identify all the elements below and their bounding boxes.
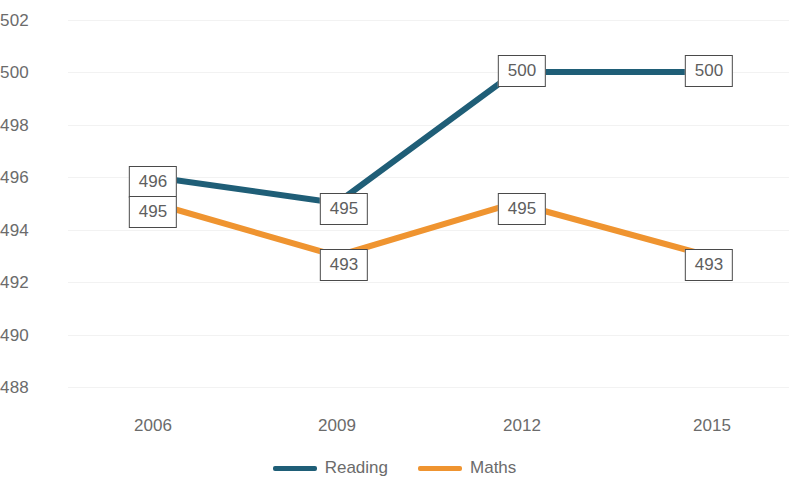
gridline-488	[68, 387, 789, 388]
data-label-reading-2012: 500	[498, 55, 546, 87]
legend-swatch-reading-icon	[273, 466, 317, 471]
data-label-maths-2015: 493	[685, 249, 733, 281]
y-axis-tick-492: 492	[0, 273, 58, 293]
line-chart: 502 500 498 496 494 492 490 488 496 495 …	[0, 0, 789, 484]
y-axis-tick-488: 488	[0, 378, 58, 398]
legend-label-maths: Maths	[470, 458, 516, 478]
legend-swatch-maths-icon	[418, 466, 462, 471]
y-axis-tick-502: 502	[0, 11, 58, 31]
y-axis-tick-490: 490	[0, 326, 58, 346]
gridline-498	[68, 125, 789, 126]
x-axis-tick-2009: 2009	[318, 416, 356, 436]
y-axis-tick-494: 494	[0, 221, 58, 241]
data-label-reading-2006: 496	[129, 166, 177, 198]
gridline-492	[68, 282, 789, 283]
chart-legend: Reading Maths	[0, 458, 789, 478]
y-axis-tick-500: 500	[0, 63, 58, 83]
data-label-reading-2015: 500	[685, 55, 733, 87]
x-axis-tick-2012: 2012	[503, 416, 541, 436]
gridline-502	[68, 20, 789, 21]
data-label-maths-2006: 495	[129, 196, 177, 228]
legend-item-reading[interactable]: Reading	[273, 458, 388, 478]
gridline-494	[68, 230, 789, 231]
y-axis-tick-496: 496	[0, 168, 58, 188]
legend-item-maths[interactable]: Maths	[418, 458, 516, 478]
y-axis-tick-498: 498	[0, 116, 58, 136]
x-axis-tick-2006: 2006	[134, 416, 172, 436]
legend-label-reading: Reading	[325, 458, 388, 478]
data-label-reading-2009: 495	[320, 193, 368, 225]
x-axis-tick-2015: 2015	[693, 416, 731, 436]
gridline-490	[68, 335, 789, 336]
data-label-maths-2012: 495	[498, 193, 546, 225]
gridline-500	[68, 72, 789, 73]
data-label-maths-2009: 493	[320, 249, 368, 281]
